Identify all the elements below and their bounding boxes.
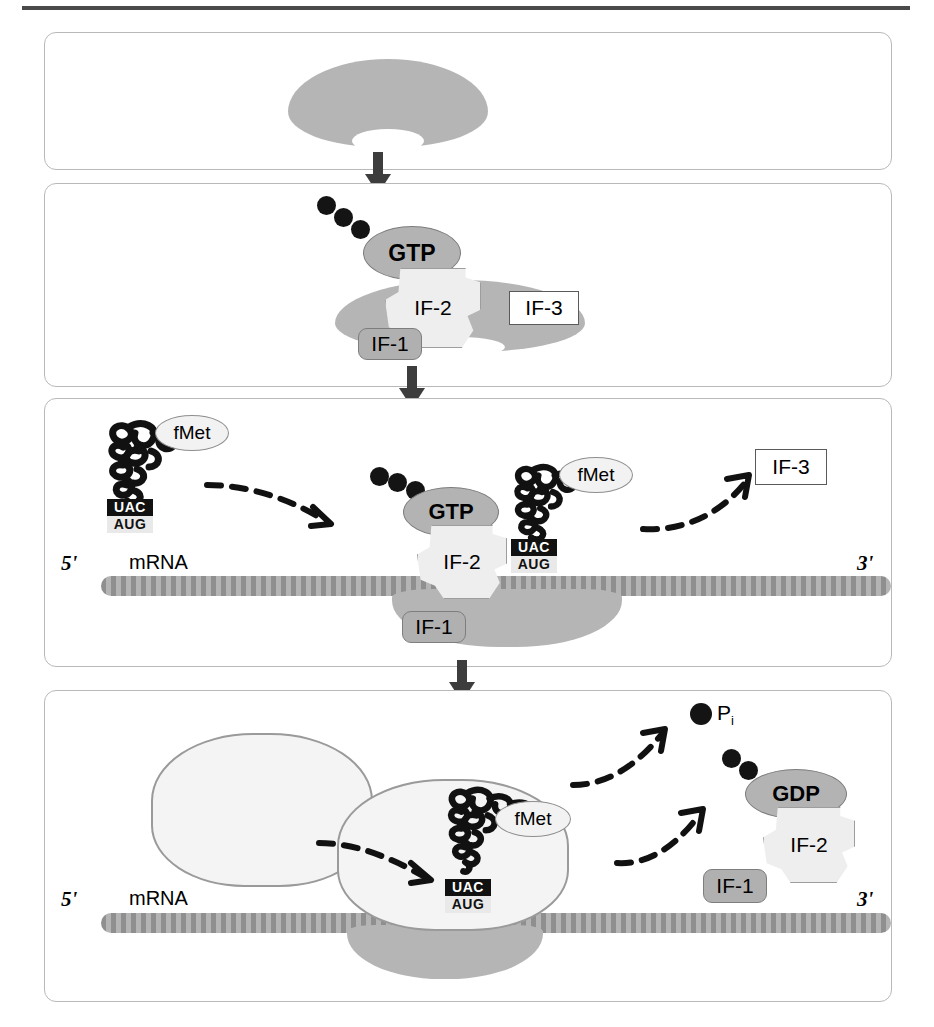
fmet-amino-acid: fMet [155,415,229,451]
30s-ribosomal-subunit [288,59,488,147]
phosphate-circle [739,761,758,780]
phosphate-letter: P [717,701,731,724]
phosphate-circle [334,208,353,227]
phosphate-circle [722,749,741,768]
codon-anticodon-pair: UAC AUG [511,539,557,573]
codon-aug: AUG [511,556,557,573]
codon-anticodon-pair: UAC AUG [107,499,153,533]
mrna-label: mRNA [129,551,188,574]
codon-aug: AUG [445,896,491,913]
three-prime-label: 3' [857,551,873,576]
panel-free-30s-subunit [44,32,892,170]
initiation-factor-1: IF-1 [358,328,422,360]
initiation-factor-3-released: IF-3 [755,449,827,485]
three-prime-label: 3' [857,887,873,912]
panel-initiation-factors-bind: GTP IF-2 IF-3 IF-1 [44,183,892,387]
translation-initiation-figure: GTP IF-2 IF-3 IF-1 5' 3' mRNA IF-1 [0,0,934,1027]
panel-initiator-trna-binds: 5' 3' mRNA IF-1 [44,398,892,667]
fmet-amino-acid: fMet [559,457,633,493]
phosphate-circle [351,220,370,239]
mrna-label: mRNA [129,887,188,910]
fmet-amino-acid: fMet [495,801,571,837]
phosphate-circle [370,467,389,486]
top-rule-divider [22,6,910,10]
initiation-factor-1-released: IF-1 [703,869,767,903]
dashed-arrow-if2-gdp-release [615,799,755,879]
five-prime-label: 5' [61,887,77,912]
panel-50s-joins: 5' 3' mRNA [44,690,892,1002]
phosphate-subscript: i [731,713,734,728]
dashed-arrow-trna-entry [205,477,355,537]
inorganic-phosphate-circle [690,703,712,725]
codon-anticodon-pair: UAC AUG [445,879,491,913]
phosphate-label: Pi [717,701,734,728]
five-prime-label: 5' [61,551,77,576]
initiation-factor-2-released: IF-2 [763,807,855,883]
dashed-arrow-phosphate-release [571,711,711,801]
phosphate-circle [388,473,407,492]
initiation-factor-3: IF-3 [509,291,579,325]
initiation-factor-1: IF-1 [402,611,466,643]
codon-aug: AUG [107,516,153,533]
phosphate-circle [317,196,336,215]
anticodon-uac: UAC [445,879,491,896]
30s-ribosomal-subunit [347,925,543,979]
anticodon-uac: UAC [107,499,153,516]
anticodon-uac: UAC [511,539,557,556]
